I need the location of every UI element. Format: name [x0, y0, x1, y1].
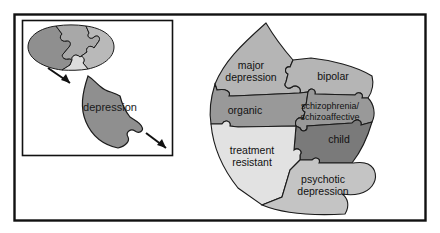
label-major-depression-line2: depression [225, 71, 277, 83]
figure-root: depression major depression bipolar orga… [0, 0, 440, 233]
label-treatment-resistant-line2: resistant [232, 156, 272, 168]
label-child: child [328, 133, 350, 145]
label-treatment-resistant-line1: treatment [230, 144, 274, 156]
label-bipolar: bipolar [317, 70, 349, 82]
oval-puzzle [28, 25, 114, 70]
label-schizophrenia-line1: schizophrenia/ [301, 101, 360, 111]
depression-piece-label: depression [83, 101, 137, 113]
label-psychotic-depression-line1: psychotic [301, 173, 345, 185]
label-psychotic-depression-line2: depression [297, 185, 349, 197]
label-organic: organic [228, 104, 262, 116]
label-major-depression-line1: major [238, 59, 265, 71]
label-schizophrenia-line2: schizoaffective [301, 112, 360, 122]
